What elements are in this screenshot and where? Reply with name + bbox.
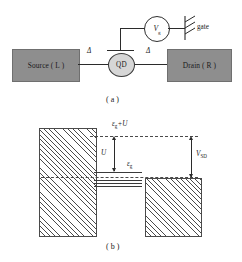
bias-voltage-arrowhead-down bbox=[189, 174, 193, 178]
bias-voltage-arrow-shaft bbox=[191, 139, 192, 177]
charging-energy-label: U bbox=[101, 150, 106, 157]
source-fermi-dashed-line bbox=[41, 177, 198, 178]
source-lead-label: Source ( L ) bbox=[28, 61, 64, 70]
gate-capacitor-plate bbox=[107, 50, 134, 51]
quantum-dot-label: QD bbox=[116, 61, 127, 69]
dot-energy-level bbox=[94, 186, 142, 187]
charging-energy-arrowhead-down bbox=[112, 168, 116, 172]
source-lead-box: Source ( L ) bbox=[12, 49, 80, 82]
upper-level-dashed-line bbox=[90, 136, 198, 137]
bias-voltage-arrowhead-up bbox=[189, 136, 193, 140]
right-electrode-box bbox=[145, 178, 202, 237]
tunnel-barrier-left-label: Δ bbox=[87, 48, 91, 55]
source-to-dot-wire bbox=[78, 64, 110, 65]
tunnel-barrier-right-label: Δ bbox=[146, 48, 150, 55]
upper-level-label: εg+U bbox=[112, 121, 127, 130]
panel-b-caption: ( b ) bbox=[106, 242, 119, 251]
gate-plate-vertical-wire bbox=[120, 28, 121, 50]
gate-voltage-source: Vg bbox=[144, 16, 170, 42]
drain-lead-label: Drain ( R ) bbox=[183, 61, 216, 70]
gate-label: gate bbox=[197, 24, 209, 31]
dot-energy-level bbox=[94, 183, 142, 184]
figure-quantum-dot-schematic: Source ( L ) Drain ( R ) QD Δ Δ Vg gate … bbox=[0, 0, 242, 262]
dot-to-drain-wire bbox=[134, 64, 167, 65]
gate-horizontal-wire bbox=[120, 28, 145, 29]
panel-a-caption: ( a ) bbox=[106, 95, 119, 104]
drain-lead-box: Drain ( R ) bbox=[167, 49, 232, 82]
bias-voltage-label: VSD bbox=[196, 151, 207, 160]
charging-energy-arrowhead-up bbox=[112, 136, 116, 140]
charging-energy-arrow-shaft bbox=[114, 139, 115, 171]
dot-level-label: εg bbox=[127, 161, 132, 170]
gate-voltage-source-label: Vg bbox=[153, 24, 160, 35]
dot-energy-level bbox=[94, 172, 142, 173]
left-electrode-box bbox=[39, 128, 97, 237]
quantum-dot-circle: QD bbox=[108, 53, 135, 77]
dot-energy-level bbox=[94, 180, 142, 181]
